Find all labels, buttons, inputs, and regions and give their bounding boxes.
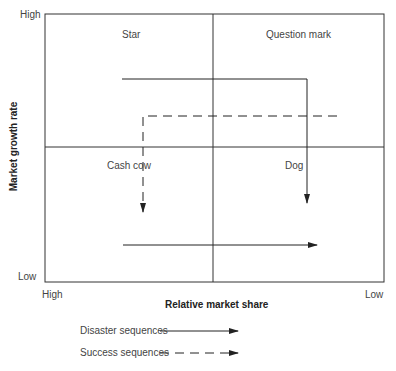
y-axis-high-label: High <box>20 9 41 20</box>
success-sequence-arrow <box>143 116 337 212</box>
x-axis-title: Relative market share <box>165 299 268 310</box>
y-axis-title: Market growth rate <box>8 92 19 202</box>
matrix-graphic <box>0 0 396 371</box>
matrix-frame <box>45 14 384 282</box>
quadrant-question-mark-label: Question mark <box>266 29 331 40</box>
legend-disaster-label: Disaster sequences <box>80 325 168 336</box>
quadrant-star-label: Star <box>122 29 140 40</box>
x-axis-low-label: Low <box>365 289 383 300</box>
x-axis-high-label: High <box>42 289 63 300</box>
y-axis-low-label: Low <box>18 271 36 282</box>
legend-success-label: Success sequences <box>80 347 169 358</box>
quadrant-cash-cow-label: Cash cow <box>107 160 151 171</box>
quadrant-dog-label: Dog <box>285 160 303 171</box>
legend-lines <box>160 331 238 353</box>
